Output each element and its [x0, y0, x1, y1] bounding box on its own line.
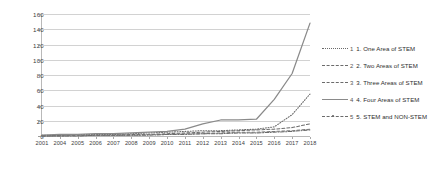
- legend-item-3[interactable]: 33. Three Areas of STEM: [322, 74, 438, 91]
- legend-series-number-3: 3: [350, 80, 353, 86]
- legend-item-1[interactable]: 11. One Area of STEM: [322, 40, 438, 57]
- legend-line-swatch-3: [322, 79, 348, 87]
- legend-line-swatch-4: [322, 96, 348, 104]
- legend-label-4: 4. Four Areas of STEM: [356, 96, 419, 103]
- chart-container: 020406080100120140160 200120042005200620…: [0, 0, 440, 169]
- legend-item-4[interactable]: 44. Four Areas of STEM: [322, 91, 438, 108]
- legend-series-number-2: 2: [350, 63, 353, 69]
- legend-item-5[interactable]: 55. STEM and NON-STEM: [322, 108, 438, 125]
- legend-series-number-4: 4: [350, 97, 353, 103]
- legend-line-swatch-1: [322, 45, 348, 53]
- chart-legend: 11. One Area of STEM22. Two Areas of STE…: [322, 40, 438, 125]
- legend-item-2[interactable]: 22. Two Areas of STEM: [322, 57, 438, 74]
- legend-series-number-5: 5: [350, 114, 353, 120]
- legend-series-number-1: 1: [350, 46, 353, 52]
- legend-line-swatch-2: [322, 62, 348, 70]
- legend-line-swatch-5: [322, 113, 348, 121]
- legend-label-1: 1. One Area of STEM: [356, 45, 415, 52]
- series-line-4: [42, 23, 310, 135]
- legend-label-5: 5. STEM and NON-STEM: [356, 113, 427, 120]
- legend-label-3: 3. Three Areas of STEM: [356, 79, 422, 86]
- legend-label-2: 2. Two Areas of STEM: [356, 62, 418, 69]
